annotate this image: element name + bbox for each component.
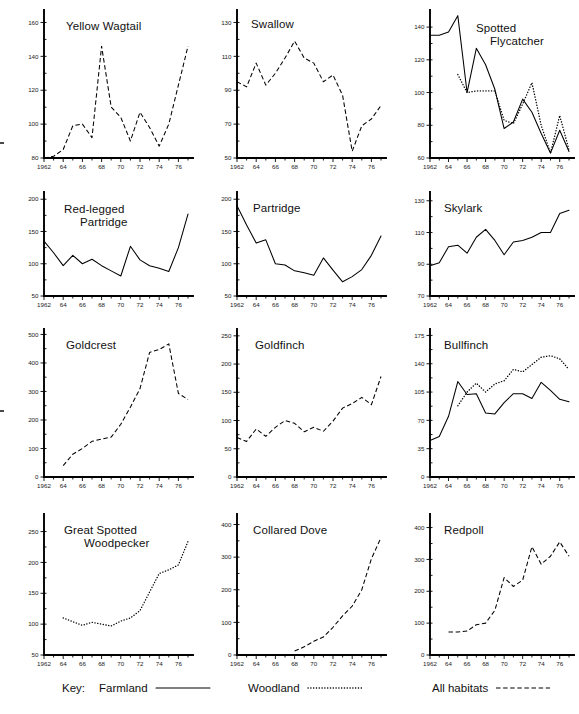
x-tick-label-4-1970: 70 [310,301,317,308]
chart-title-3: Red-leggedPartridge [64,203,128,228]
y-tick-label-4-50: 50 [225,292,232,299]
x-tick-label-2-1968: 68 [482,163,489,170]
x-tick-label-0-1970: 70 [117,163,124,170]
x-tick-label-10-1974: 74 [349,660,356,667]
y-tick-label-11-100: 100 [414,619,425,626]
x-tick-label-5-1968: 68 [482,301,489,308]
chart-svg-8: 03570105140175196264666870727476Bullfinc… [400,327,575,499]
x-tick-label-5-1974: 74 [538,301,545,308]
y-tick-label-9-50: 50 [32,651,39,658]
y-tick-label-0-80: 80 [32,154,39,161]
y-tick-label-8-105: 105 [414,388,425,395]
y-tick-label-7-250: 250 [221,332,232,339]
y-tick-label-1-70: 70 [225,120,232,127]
legend-sample-farmland [154,684,212,692]
x-tick-label-5-1976: 76 [556,301,563,308]
x-tick-label-4-1968: 68 [291,301,298,308]
x-tick-label-6-1970: 70 [117,482,124,489]
x-tick-label-0-1962: 1962 [37,163,51,170]
series-2-1 [458,75,569,154]
chart-svg-11: 0100200300400196264666870727476Redpoll [400,512,575,677]
x-tick-label-3-1966: 66 [79,301,86,308]
y-tick-label-2-100: 100 [414,89,425,96]
x-tick-label-8-1972: 72 [519,482,526,489]
y-tick-label-6-500: 500 [28,331,39,338]
x-tick-label-4-1976: 76 [368,301,375,308]
chart-panel-10: 0100200300400196264666870727476Collared … [207,512,387,677]
y-tick-label-6-100: 100 [28,445,39,452]
x-tick-label-5-1962: 1962 [423,301,437,308]
chart-panel-0: 80100120140160196264666870727476Yellow W… [14,8,194,180]
series-5-0 [430,210,569,266]
legend-label-all-habitats: All habitats [432,682,488,694]
chart-title-4: Partridge [253,202,301,214]
y-tick-label-2-120: 120 [414,56,425,63]
x-tick-label-4-1966: 66 [272,301,279,308]
x-tick-label-2-1974: 74 [538,163,545,170]
x-tick-label-11-1974: 74 [538,660,545,667]
x-tick-label-1-1968: 68 [291,163,298,170]
x-tick-label-11-1976: 76 [556,660,563,667]
chart-title-10: Collared Dove [253,524,327,536]
y-tick-label-10-200: 200 [221,586,232,593]
y-tick-label-11-300: 300 [414,556,425,563]
y-tick-label-4-150: 150 [221,228,232,235]
x-tick-label-1-1976: 76 [368,163,375,170]
y-tick-label-0-100: 100 [28,120,39,127]
x-tick-label-0-1968: 68 [98,163,105,170]
y-tick-label-5-110: 110 [415,229,425,236]
y-tick-label-8-140: 140 [414,360,425,367]
series-7-0 [237,376,381,441]
y-tick-label-8-35: 35 [418,445,425,452]
y-tick-label-9-150: 150 [28,589,39,596]
chart-panel-9: 50100150200250196264666870727476Great Sp… [14,512,194,677]
y-tick-label-2-140: 140 [414,23,425,30]
x-tick-label-1-1974: 74 [349,163,356,170]
x-tick-label-8-1962: 1962 [423,482,437,489]
x-tick-label-9-1976: 76 [175,660,182,667]
x-tick-label-9-1966: 66 [79,660,86,667]
chart-svg-10: 0100200300400196264666870727476Collared … [207,512,387,677]
chart-svg-0: 80100120140160196264666870727476Yellow W… [14,8,194,180]
y-tick-label-6-200: 200 [28,416,39,423]
series-1-0 [237,41,381,151]
chart-title-2: SpottedFlycatcher [476,22,544,47]
y-tick-label-7-50: 50 [225,445,232,452]
y-tick-label-10-0: 0 [228,651,232,658]
y-tick-label-1-90: 90 [225,86,232,93]
x-tick-label-6-1966: 66 [79,482,86,489]
chart-svg-7: 050100150200250196264666870727476Goldfin… [207,327,387,499]
legend-label-woodland: Woodland [248,682,300,694]
chart-panel-7: 050100150200250196264666870727476Goldfin… [207,327,387,499]
y-tick-label-9-100: 100 [28,620,39,627]
page-edge-mark-left-top [0,142,4,144]
x-tick-label-6-1968: 68 [98,482,105,489]
x-tick-label-3-1976: 76 [175,301,182,308]
y-tick-label-6-400: 400 [28,359,39,366]
x-tick-label-4-1972: 72 [330,301,337,308]
y-tick-label-3-100: 100 [28,260,39,267]
series-6-0 [63,344,188,466]
x-tick-label-8-1974: 74 [538,482,545,489]
x-tick-label-6-1964: 64 [60,482,67,489]
y-tick-label-9-250: 250 [28,528,39,535]
x-tick-label-7-1968: 68 [291,482,298,489]
series-10-0 [295,538,381,652]
x-tick-label-11-1970: 70 [501,660,508,667]
x-tick-label-8-1968: 68 [482,482,489,489]
x-tick-label-0-1972: 72 [137,163,144,170]
chart-svg-9: 50100150200250196264666870727476Great Sp… [14,512,194,677]
y-tick-label-0-160: 160 [28,19,39,26]
legend-item-woodland: Woodland [248,682,364,694]
x-tick-label-3-1968: 68 [98,301,105,308]
x-tick-label-7-1966: 66 [272,482,279,489]
chart-panel-8: 03570105140175196264666870727476Bullfinc… [400,327,575,499]
x-tick-label-9-1974: 74 [156,660,163,667]
y-tick-label-11-0: 0 [421,651,425,658]
chart-panel-4: 50100150200196264666870727476Partridge [207,190,387,318]
x-tick-label-10-1970: 70 [310,660,317,667]
y-tick-label-3-200: 200 [28,195,39,202]
x-tick-label-5-1966: 66 [464,301,471,308]
x-tick-label-10-1962: 1962 [230,660,244,667]
x-tick-label-3-1964: 64 [60,301,67,308]
